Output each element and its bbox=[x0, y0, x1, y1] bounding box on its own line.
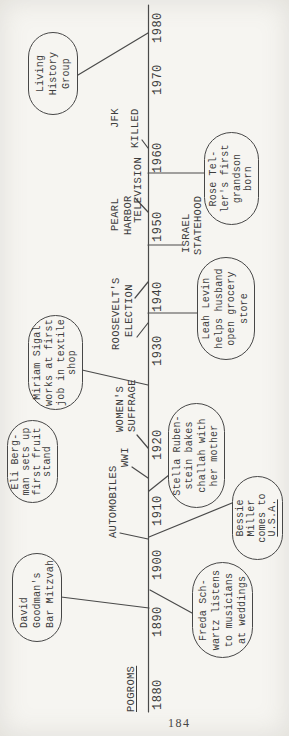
connector-wwi bbox=[132, 467, 148, 478]
year-label-1940: 1940 bbox=[151, 281, 165, 312]
bubble-miriam-sigal-line-4: shop bbox=[67, 350, 79, 375]
bubble-living-history-group-line-3: Group bbox=[60, 58, 73, 89]
bubble-rose-teller: Rose Tel-ler's firstgrandsonborn bbox=[204, 132, 259, 225]
year-label-1880: 1880 bbox=[151, 679, 165, 710]
connector-roosevelt-b bbox=[137, 323, 148, 337]
bubble-stella-rubenstein-line-2: stein bakes bbox=[184, 421, 196, 489]
bubble-leah-levin-line-1: Leah Levin bbox=[201, 278, 214, 340]
year-label-1960: 1960 bbox=[151, 142, 165, 173]
bubble-eli-bergman-line-2: man sets up bbox=[22, 427, 33, 495]
bubble-freda-schwartz-line-3: to musicians bbox=[223, 573, 236, 647]
connector-living-history bbox=[78, 33, 148, 75]
bubble-leah-levin-line-2: helps husband bbox=[214, 268, 227, 349]
era-label-television: TELEVISION bbox=[133, 157, 144, 223]
era-label-pearl: PEARL bbox=[110, 198, 121, 231]
year-label-1910: 1910 bbox=[151, 495, 165, 526]
bubble-bessie-miller: BessieMillercomes toU.S.A. bbox=[232, 476, 283, 560]
bubble-stella-rubenstein-line-3: challah with bbox=[197, 418, 209, 492]
bubble-rose-teller-line-1: Rose Tel- bbox=[208, 151, 220, 207]
bubble-miriam-sigal-line-2: works at first bbox=[44, 319, 56, 406]
bubble-freda-schwartz: Freda Sch-wartz listensto musiciansat we… bbox=[192, 562, 253, 658]
year-label-1980: 1980 bbox=[151, 12, 165, 43]
bubble-david-goodman-line-1: David bbox=[18, 597, 31, 628]
connector-stella-ruben bbox=[149, 475, 169, 491]
book-page: 1880189019001910192019301940195019601970… bbox=[0, 0, 289, 736]
bubble-bessie-miller-line-4: U.S.A. bbox=[268, 499, 279, 536]
bubble-rose-teller-line-4: born bbox=[243, 166, 255, 191]
bubble-leah-levin-line-3: open grocery bbox=[226, 271, 239, 345]
connector-jfk-killed bbox=[142, 140, 148, 148]
year-label-1950: 1950 bbox=[151, 211, 165, 242]
bubble-eli-bergman: Eli Berg-man sets upfirst fruitstand bbox=[7, 420, 58, 503]
connector-david-goodman bbox=[61, 597, 149, 608]
era-label-roosevelts: ROOSEVELT'S bbox=[111, 277, 122, 350]
bubble-living-history-group-line-2: History bbox=[47, 52, 60, 95]
year-label-1890: 1890 bbox=[151, 606, 165, 637]
era-label-womens: WOMEN'S bbox=[115, 386, 126, 432]
connector-roosevelt-a bbox=[135, 282, 148, 298]
era-label-israel: ISRAEL bbox=[181, 213, 192, 253]
bubble-living-history-group: LivingHistoryGroup bbox=[28, 32, 78, 115]
era-label-election: ELECTION bbox=[124, 284, 135, 337]
bubble-stella-rubenstein: Stella Ruben-stein bakeschallah withher … bbox=[168, 403, 225, 508]
bubble-freda-schwartz-line-4: at weddings bbox=[236, 576, 249, 644]
connector-automobiles bbox=[120, 533, 148, 539]
page-number: 184 bbox=[168, 716, 191, 731]
timeline-figure: 1880189019001910192019301940195019601970… bbox=[0, 0, 289, 718]
era-label-killed: KILLED bbox=[130, 108, 141, 148]
year-label-1970: 1970 bbox=[151, 64, 165, 95]
era-label-jfk: JFK bbox=[110, 108, 121, 128]
bubble-rose-teller-line-3: grandson bbox=[232, 154, 244, 204]
bubble-rose-teller-line-2: ler's first bbox=[220, 144, 232, 212]
bubble-stella-rubenstein-line-4: her mother bbox=[209, 425, 221, 487]
bubble-david-goodman-line-2: Goodman's bbox=[31, 572, 44, 628]
connector-suffrage bbox=[137, 435, 148, 448]
bubble-david-goodman: DavidGoodman'sBar Mitzvah bbox=[12, 553, 62, 642]
bubble-bessie-miller-line-2: Miller bbox=[247, 499, 258, 536]
era-label-statehood: STATEHOOD bbox=[193, 196, 204, 255]
bubble-leah-levin: Leah Levinhelps husbandopen grocerystore bbox=[197, 257, 255, 360]
era-label-automobiles: AUTOMOBILES bbox=[108, 465, 119, 538]
bubble-david-goodman-line-3: Bar Mitzvah bbox=[44, 560, 57, 628]
era-label-wwi: WWI bbox=[120, 447, 131, 467]
era-label-pogroms: POGROMS bbox=[126, 666, 137, 712]
bubble-miriam-sigal-line-1: Miriam Sigal bbox=[32, 325, 44, 399]
bubble-miriam-sigal-line-3: job in textile bbox=[56, 319, 68, 406]
year-label-1900: 1900 bbox=[151, 549, 165, 580]
bubble-living-history-group-line-1: Living bbox=[34, 55, 47, 92]
year-label-1920: 1920 bbox=[151, 429, 165, 460]
bubble-stella-rubenstein-line-1: Stella Ruben- bbox=[172, 415, 184, 496]
connector-miriam-sigal bbox=[82, 370, 148, 385]
bubble-freda-schwartz-line-2: wartz listens bbox=[210, 570, 223, 651]
bubble-eli-bergman-line-4: stand bbox=[43, 446, 54, 477]
bubble-miriam-sigal: Miriam Sigalworks at firstjob in textile… bbox=[28, 315, 83, 410]
era-label-suffrage: SUFFRAGE bbox=[127, 379, 138, 432]
bubble-freda-schwartz-line-1: Freda Sch- bbox=[197, 579, 210, 641]
bubble-leah-levin-line-4: store bbox=[239, 293, 252, 324]
year-label-1930: 1930 bbox=[151, 335, 165, 366]
